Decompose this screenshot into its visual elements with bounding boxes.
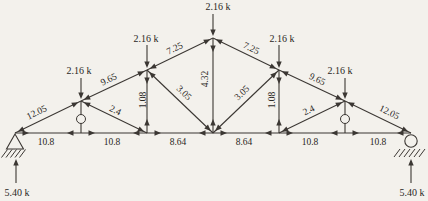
roller-support-hatch [399, 149, 405, 157]
load-arrowhead [342, 93, 347, 100]
member-force-label: 8.64 [236, 137, 253, 147]
load-arrowhead [210, 30, 215, 37]
member-arrowhead [331, 130, 338, 135]
member-arrowhead [276, 78, 281, 85]
reaction-label: 5.40 k [400, 187, 425, 198]
member-line [345, 101, 411, 133]
member-arrowhead [265, 130, 272, 135]
member-force-label: 10.8 [38, 137, 55, 147]
member-force-label: 4.32 [200, 70, 210, 87]
reaction-arrowhead [13, 159, 18, 166]
member-force-label: 8.64 [170, 137, 187, 147]
load-label: 2.16 k [270, 33, 295, 44]
member-force-label: 10.8 [302, 137, 319, 147]
reaction-arrowhead [408, 159, 413, 166]
member-force-label: 1.08 [267, 91, 277, 108]
member-arrowhead [144, 119, 149, 126]
zero-force-marker [77, 115, 86, 124]
load-label: 2.16 k [67, 65, 92, 76]
roller-support [405, 135, 417, 147]
roller-support-hatch [414, 149, 420, 157]
member-arrowhead [89, 130, 96, 135]
member-arrowhead [23, 130, 30, 135]
member-arrowhead [276, 119, 281, 126]
member-arrowhead [221, 130, 228, 135]
roller-support-hatch [394, 149, 400, 157]
truss-figure: 12.059.657.257.259.6512.0510.810.88.648.… [0, 0, 428, 201]
truss-force-diagram-svg: 12.059.657.257.259.6512.0510.810.88.648.… [0, 0, 428, 201]
member-force-label: 10.8 [104, 137, 121, 147]
reaction-label: 5.40 k [5, 187, 30, 198]
member-arrowhead [144, 78, 149, 85]
member-force-label: 1.08 [138, 91, 148, 108]
member-force-label: 2.4 [301, 103, 316, 117]
load-arrowhead [144, 62, 149, 69]
member-arrowhead [397, 130, 404, 135]
member-force-label: 10.8 [370, 137, 387, 147]
load-arrowhead [276, 62, 281, 69]
member-force-label: 7.25 [165, 40, 185, 56]
roller-support-hatch [419, 149, 425, 157]
member-arrowhead [210, 119, 215, 126]
load-arrowhead [78, 93, 83, 100]
zero-force-marker [341, 115, 350, 124]
member-arrowhead [155, 130, 162, 135]
load-label: 2.16 k [206, 1, 231, 12]
pin-support [7, 134, 24, 149]
load-label: 2.16 k [134, 33, 159, 44]
member-arrowhead [199, 130, 206, 135]
member-arrowhead [67, 130, 74, 135]
member-line [15, 101, 81, 133]
member-arrowhead [353, 130, 360, 135]
member-arrowhead [210, 46, 215, 53]
roller-support-hatch [409, 149, 415, 157]
member-force-label: 7.25 [242, 40, 262, 56]
load-label: 2.16 k [328, 65, 353, 76]
roller-support-hatch [404, 149, 410, 157]
